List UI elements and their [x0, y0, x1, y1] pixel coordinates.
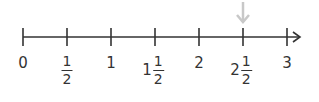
- denominator: 2: [242, 72, 251, 87]
- numerator: 1: [242, 54, 251, 69]
- label-one-and-half: 112: [142, 54, 164, 86]
- denominator: 2: [154, 72, 163, 87]
- denominator: 2: [63, 72, 72, 87]
- label-3: 3: [282, 56, 292, 71]
- label-one-half: 12: [62, 54, 73, 86]
- whole: 2: [230, 63, 240, 78]
- label-2: 2: [194, 56, 204, 71]
- down-arrow-icon: [237, 2, 249, 22]
- numerator: 1: [154, 54, 163, 69]
- numerator: 1: [63, 54, 72, 69]
- number-line: [0, 0, 319, 102]
- whole: 1: [142, 63, 152, 78]
- label-1: 1: [106, 56, 116, 71]
- label-two-and-half: 212: [230, 54, 252, 86]
- label-0: 0: [18, 56, 28, 71]
